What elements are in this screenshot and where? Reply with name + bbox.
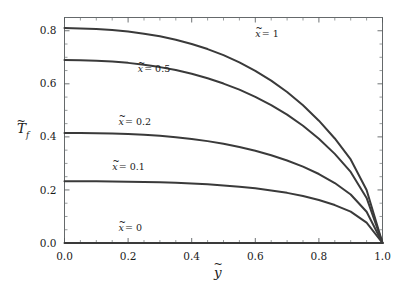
x-axis-label-tilde: ~ bbox=[214, 258, 223, 271]
x-tick-label: 0.2 bbox=[120, 250, 137, 262]
curve-label-value: = 0 bbox=[125, 222, 142, 233]
x-tick-label: 0.8 bbox=[311, 250, 328, 262]
y-tick-label: 0.8 bbox=[40, 24, 57, 36]
x-tick-label: 1.0 bbox=[374, 250, 391, 262]
x-axis-label: y ~ bbox=[213, 258, 223, 280]
curve-label-value: = 0.1 bbox=[119, 161, 145, 172]
y-tick-label: 0.0 bbox=[40, 237, 57, 249]
y-axis-label-tilde: ~ bbox=[17, 115, 26, 128]
curve-label-value: = 1 bbox=[262, 28, 279, 39]
x-tick-label: 0.4 bbox=[183, 250, 200, 262]
y-tick-label: 0.4 bbox=[40, 130, 57, 142]
x-tick-label: 0.0 bbox=[56, 250, 73, 262]
plot-figure: 0.00.20.40.60.81.00.00.20.40.60.8 x~= 1x… bbox=[0, 0, 420, 283]
y-tick-label: 0.6 bbox=[40, 77, 57, 89]
curve-label-value: = 0.2 bbox=[125, 116, 151, 127]
curve-label-value: = 0.5 bbox=[144, 63, 170, 74]
x-tick-label: 0.6 bbox=[247, 250, 264, 262]
y-tick-label: 0.2 bbox=[40, 184, 57, 196]
